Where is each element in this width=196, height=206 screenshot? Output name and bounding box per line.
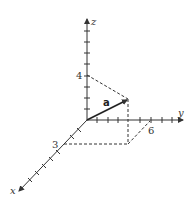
x-axis — [19, 120, 87, 191]
z-axis — [84, 19, 90, 120]
z-axis-label: z — [90, 16, 97, 27]
y-tick-label-6: 6 — [148, 125, 154, 136]
x-axis-label: x — [10, 185, 16, 196]
vector-diagram: z y x 4 6 3 a — [0, 0, 196, 206]
y-axis — [87, 117, 183, 123]
vector-a-label: a — [103, 97, 110, 108]
x-tick-label-3: 3 — [52, 139, 58, 150]
y-axis-label: y — [177, 107, 184, 118]
z-tick-label-4: 4 — [76, 70, 82, 81]
